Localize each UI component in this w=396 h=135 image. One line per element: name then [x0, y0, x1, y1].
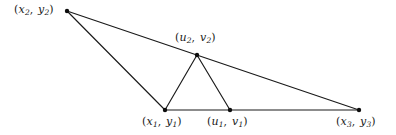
- vertex-x1-y1-dot: [163, 108, 167, 112]
- vertex-x2-y2-label: (x2, y2): [14, 4, 54, 15]
- vertex-x1-y1-label: (x1, y1): [142, 116, 182, 127]
- vertex-u2-v2-dot: [195, 53, 199, 57]
- vertex-u2-v2-label: (u2, v2): [175, 32, 216, 43]
- edge-x2y2-to-x1y1: [67, 11, 165, 110]
- vertex-u1-v1-label: (u1, v1): [207, 116, 248, 127]
- vertex-u1-v1-dot: [228, 108, 232, 112]
- vertex-x3-y3-dot: [357, 108, 361, 112]
- edge-u2v2-to-u1v1: [197, 55, 230, 110]
- edge-x2y2-to-x3y3: [67, 11, 359, 110]
- vertex-x2-y2-dot: [65, 9, 69, 13]
- edge-x1y1-to-u2v2: [165, 55, 197, 110]
- edges-group: [67, 11, 359, 110]
- vertex-x3-y3-label: (x3, y3): [336, 116, 376, 127]
- triangle-diagram-figure: (x2, y2)(u2, v2)(x1, y1)(u1, v1)(x3, y3): [0, 0, 396, 135]
